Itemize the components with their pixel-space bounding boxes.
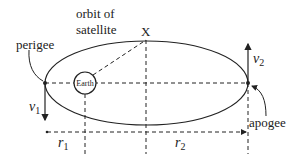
perigee-label: perigee xyxy=(16,37,54,52)
earth-label: Earth xyxy=(76,79,93,88)
r1-label: r1 xyxy=(58,135,68,152)
r2-label: r2 xyxy=(175,135,185,152)
orbit-diagram: Earth orbit of satellite X perigee apoge… xyxy=(0,0,299,154)
orbit-label-line1: orbit of xyxy=(76,6,115,21)
perigee-pointer xyxy=(29,50,43,81)
point-x-label: X xyxy=(141,24,151,39)
v2-label: v2 xyxy=(253,51,264,68)
v1-label: v1 xyxy=(29,99,40,116)
apogee-label: apogee xyxy=(249,115,286,130)
apogee-pointer xyxy=(252,86,266,116)
r-baseline-start-dot xyxy=(46,131,49,134)
orbit-label-line2: satellite xyxy=(76,22,117,37)
